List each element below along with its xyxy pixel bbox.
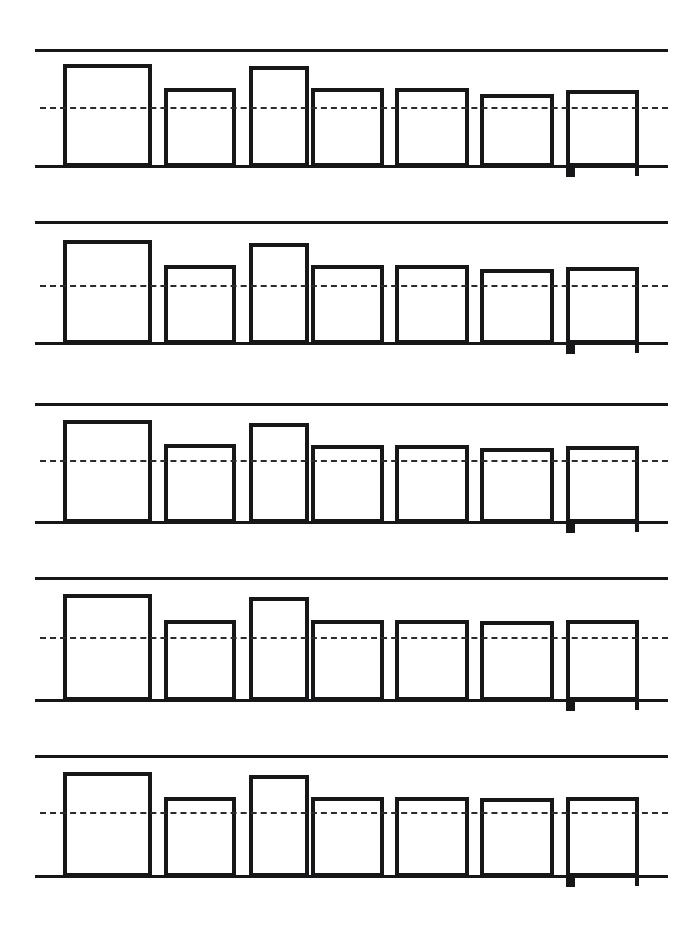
bar-chart-figure: [0, 0, 698, 933]
panel-5-bar-7: [566, 797, 639, 878]
panel-5: [0, 0, 698, 933]
panel-5-bar-6: [480, 798, 554, 878]
panel-5-bar-7-right-drop: [635, 878, 639, 886]
panel-5-bar-5: [395, 797, 469, 878]
panel-top-rule: [35, 755, 668, 758]
panel-5-bar-2: [164, 797, 236, 878]
panel-5-bar-7-foot-tick: [566, 878, 575, 887]
panel-5-bar-1: [63, 772, 152, 878]
panel-5-bar-4: [311, 797, 384, 878]
panel-5-bar-3: [249, 775, 309, 878]
panel-reference-dashed-line: [40, 812, 668, 814]
